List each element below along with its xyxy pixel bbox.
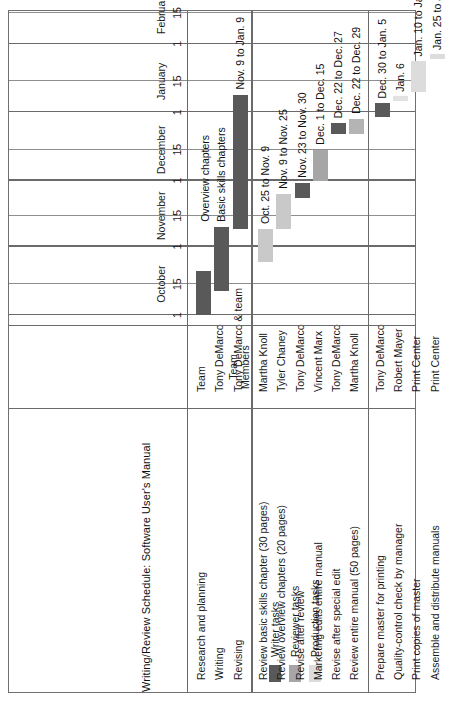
gridline-october-1 (9, 314, 415, 315)
month-label-february: February (155, 0, 167, 47)
bar-label: Basic skills chapters (215, 127, 227, 222)
gantt-bar (295, 183, 310, 198)
bar-label: Dec. 30 to Jan. 5 (376, 19, 388, 98)
gantt-bar (258, 229, 273, 262)
tick-label-november-1: 1 (171, 235, 183, 259)
tick-label-december-15: 15 (171, 138, 183, 162)
tick-label-january-1: 1 (171, 100, 183, 124)
bar-label: Overview chapters (199, 135, 211, 222)
task-member: Team (195, 366, 207, 392)
month-label-january: January (155, 47, 167, 115)
gantt-bar (430, 54, 445, 59)
tick-label-november-15: 15 (171, 204, 183, 228)
task-name: Revise after special edit (330, 569, 342, 680)
task-name: Revise after review (294, 591, 306, 680)
task-member: Tony DeMarco (213, 324, 225, 392)
gridline-february-15 (9, 12, 415, 13)
gantt-bar (393, 96, 408, 101)
month-label-november: November (155, 182, 167, 250)
timeline-plot: Basic skills chaptersOverview chaptersNo… (9, 11, 415, 319)
month-label-october: October (155, 250, 167, 318)
task-member: Tyler Chaney (275, 330, 287, 392)
task-name: Review overview chapters (20 pages) (275, 505, 287, 680)
bar-label: Oct. 25 to Nov. 9 (259, 146, 271, 224)
task-member: Martha Knoll (348, 333, 360, 392)
tick-label-october-15: 15 (171, 272, 183, 296)
task-member: Tony DeMarco (294, 324, 306, 392)
task-member: Tony DeMarco (374, 324, 386, 392)
column-separator-1 (9, 325, 415, 326)
bar-label: Jan. 6 (394, 63, 406, 92)
task-name: Research and planning (195, 572, 207, 680)
task-name: Revising (232, 640, 244, 680)
gantt-bar (313, 150, 328, 181)
task-member: Tony DeMarco (330, 324, 342, 392)
task-name: Print copies of master (410, 578, 422, 680)
gridline-december-15 (9, 149, 415, 150)
bar-label: Nov. 9 to Nov. 25 (277, 109, 289, 189)
group-separator (368, 409, 369, 692)
bar-label: Jan. 10 to Jan. 24 (412, 0, 424, 57)
gridline-november-15 (9, 215, 415, 216)
task-member: Print Center (429, 336, 441, 392)
bar-label: Dec. 1 to Dec. 15 (314, 64, 326, 145)
task-member: Martha Knoll (257, 333, 269, 392)
task-name: Quality-control check by manager (392, 524, 404, 680)
chart-frame: Writing/Review Schedule: Software User's… (8, 10, 416, 693)
gantt-bar (411, 62, 426, 93)
tick-label-january-15: 15 (171, 69, 183, 93)
month-label-december: December (155, 116, 167, 184)
task-row: Assemble and distribute manualsPrint Cen… (429, 11, 449, 692)
tick-label-december-1: 1 (171, 169, 183, 193)
group-separator (368, 11, 369, 409)
gantt-bar (196, 271, 211, 315)
task-member: Print Center (410, 336, 422, 392)
task-member: Vincent Marx (312, 331, 324, 392)
bar-label: Nov. 9 to Jan. 9 (234, 17, 246, 90)
column-separator-0 (9, 408, 415, 409)
task-name: Writing (213, 648, 225, 680)
gridline-december-1 (9, 179, 415, 180)
gantt-bar (375, 103, 390, 116)
task-member: Robert Mayer (392, 328, 404, 392)
task-name: Assemble and distribute manuals (429, 525, 441, 680)
task-name: Marketing edits entire manual (312, 542, 324, 680)
bar-label: Dec. 22 to Dec. 29 (350, 27, 362, 114)
group-separator (251, 11, 252, 409)
tick-label-february-15: 15 (171, 1, 183, 25)
time-axis-line (187, 11, 188, 409)
task-name: Prepare master for printing (374, 555, 386, 680)
bar-label: Nov. 23 to Nov. 30 (296, 92, 308, 177)
gantt-bar (331, 123, 346, 134)
gantt-bar (214, 227, 229, 291)
tick-label-october-1: 1 (171, 303, 183, 327)
gantt-bar (349, 119, 364, 134)
gantt-bar (276, 194, 291, 229)
gridline-october-15 (9, 283, 415, 284)
tick-label-february-1: 1 (171, 32, 183, 56)
gridline-november-1 (9, 245, 415, 246)
group-separator (251, 409, 252, 692)
task-name: Review entire manual (50 pages) (348, 526, 360, 680)
bar-label: Jan. 25 to Jan. 27 (431, 0, 443, 50)
bar-label: Dec. 22 to Dec. 27 (332, 31, 344, 118)
gantt-bar (233, 95, 248, 229)
task-name: Review basic skills chapter (30 pages) (257, 501, 269, 680)
